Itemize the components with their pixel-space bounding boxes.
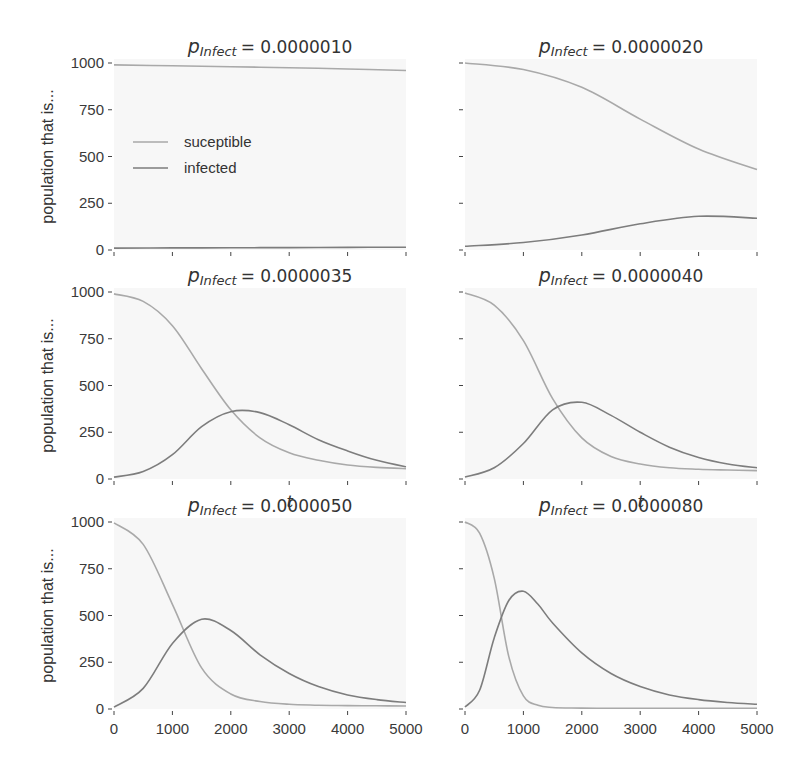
- y-tick-label: 500: [79, 607, 104, 624]
- x-tick-label: 5000: [740, 720, 773, 737]
- x-tick-label: 3000: [273, 720, 306, 737]
- y-tick-label: 1000: [71, 283, 104, 300]
- legend-label: infected: [184, 159, 237, 176]
- figure: 02505007501000pInfect= 0.0000010populati…: [0, 0, 795, 762]
- plot-area: [114, 59, 406, 250]
- subplot-title: pInfect= 0.0000010: [187, 35, 353, 59]
- subplot-title: pInfect= 0.0000035: [187, 264, 353, 288]
- x-axis: 010002000300040005000: [110, 711, 423, 737]
- y-tick-label: 250: [79, 194, 104, 211]
- subplot-2: pInfect= 0.0000020: [459, 35, 757, 256]
- y-tick-label: 1000: [71, 54, 104, 71]
- x-tick-label: 4000: [331, 720, 364, 737]
- plot-area: [465, 518, 757, 709]
- x-axis: [465, 252, 757, 256]
- y-axis: 02505007501000: [71, 283, 112, 487]
- y-tick-label: 0: [96, 241, 104, 258]
- subplot-title: pInfect= 0.0000050: [187, 494, 353, 518]
- x-tick-label: 0: [110, 720, 118, 737]
- y-tick-label: 750: [79, 330, 104, 347]
- x-tick-label: 5000: [389, 720, 422, 737]
- y-tick-label: 500: [79, 377, 104, 394]
- x-tick-label: 0: [461, 720, 469, 737]
- series-line-infected: [114, 247, 406, 248]
- y-tick-label: 1000: [71, 513, 104, 530]
- x-tick-label: 1000: [507, 720, 540, 737]
- subplot-title: pInfect= 0.0000020: [538, 35, 704, 59]
- subplot-title: pInfect= 0.0000080: [538, 494, 704, 518]
- y-tick-label: 250: [79, 653, 104, 670]
- x-axis: 010002000300040005000: [461, 711, 774, 737]
- subplot-3: 02505007501000pInfect= 0.0000035populati…: [39, 264, 406, 487]
- x-tick-label: 1000: [156, 720, 189, 737]
- x-axis: [114, 481, 406, 485]
- y-tick-label: 250: [79, 423, 104, 440]
- x-tick-label: 2000: [565, 720, 598, 737]
- x-axis-label: t: [638, 491, 645, 511]
- subplot-4: pInfect= 0.0000040: [459, 264, 757, 485]
- y-axis: [459, 522, 463, 709]
- y-tick-label: 0: [96, 700, 104, 717]
- subplot-5: 02505007501000010002000300040005000pInfe…: [39, 494, 423, 737]
- x-tick-label: 2000: [214, 720, 247, 737]
- y-axis-label: population that is...: [39, 548, 56, 682]
- x-tick-label: 3000: [624, 720, 657, 737]
- plot-area: [114, 518, 406, 709]
- y-axis: 02505007501000: [71, 513, 112, 717]
- x-axis-label: t: [287, 491, 294, 511]
- y-tick-label: 0: [96, 470, 104, 487]
- y-tick-label: 750: [79, 101, 104, 118]
- y-axis: 02505007501000: [71, 54, 112, 258]
- legend-label: suceptible: [184, 133, 252, 150]
- plot-area: [465, 288, 757, 479]
- x-tick-label: 4000: [682, 720, 715, 737]
- subplot-title: pInfect= 0.0000040: [538, 264, 704, 288]
- subplot-6: 010002000300040005000pInfect= 0.0000080: [459, 494, 774, 737]
- y-axis-label: population that is...: [39, 318, 56, 452]
- y-axis: [459, 292, 463, 479]
- y-tick-label: 750: [79, 560, 104, 577]
- y-axis: [459, 63, 463, 250]
- x-axis: [114, 252, 406, 256]
- plot-area: [114, 288, 406, 479]
- y-axis-label: population that is...: [39, 89, 56, 223]
- x-axis: [465, 481, 757, 485]
- y-tick-label: 500: [79, 148, 104, 165]
